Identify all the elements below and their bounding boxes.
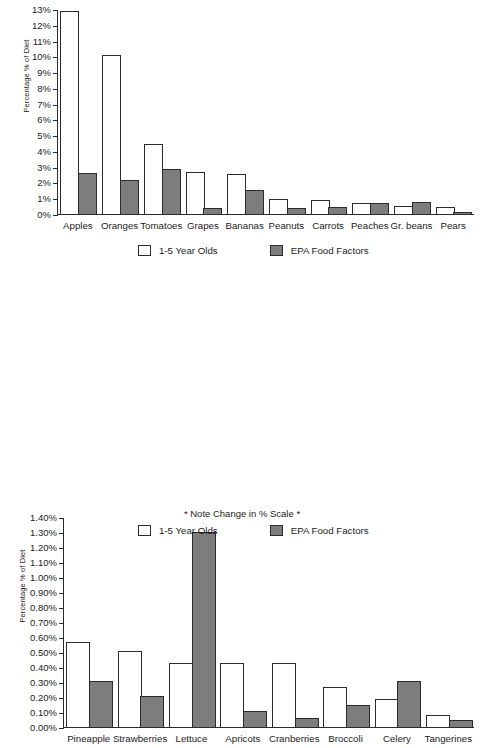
- bar-group: [321, 518, 372, 727]
- legend-label-1-5-year-olds: 1-5 Year Olds: [159, 525, 218, 536]
- bar-epa-factor: [412, 202, 431, 214]
- y-axis-tick-label: 0.20%: [30, 693, 57, 703]
- bar-epa-factor: [192, 532, 216, 727]
- y-axis-tick: [53, 215, 58, 216]
- top-chart-legend: 1-5 Year Olds EPA Food Factors: [138, 245, 369, 256]
- bottom-bar-chart: Percentage % of Diet 1.40%1.30%1.20%1.10…: [0, 506, 484, 748]
- bar-epa-factor: [370, 203, 389, 214]
- bar-epa-factor: [78, 173, 97, 214]
- bar-epa-factor: [346, 705, 370, 728]
- x-axis-label: Strawberries: [113, 734, 167, 744]
- bar-group: [115, 518, 166, 727]
- y-axis-tick-label: 1.30%: [30, 528, 57, 538]
- bar-group: [372, 518, 423, 727]
- bar-epa-factor: [397, 681, 421, 728]
- y-axis-tick-label: 10%: [32, 53, 51, 63]
- bar-group: [183, 10, 225, 214]
- bar-epa-factor: [328, 207, 347, 214]
- x-axis-label: Apples: [63, 221, 93, 231]
- legend-label-1-5-year-olds: 1-5 Year Olds: [159, 245, 218, 256]
- bar-epa-factor: [140, 696, 164, 728]
- x-axis-label: Peanuts: [269, 221, 305, 231]
- bar-child-diet: [375, 699, 399, 728]
- y-axis-tick-label: 1.20%: [30, 543, 57, 553]
- y-axis-tick-label: 0.90%: [30, 588, 57, 598]
- bar-epa-factor: [120, 180, 139, 214]
- top-chart-plot-area: 13%12%11%10%9%8%7%6%5%4%3%2%1%0%: [57, 10, 474, 215]
- y-axis-tick-label: 6%: [37, 116, 51, 126]
- x-axis-label: Peaches: [351, 221, 389, 231]
- bar-child-diet: [227, 174, 246, 214]
- y-axis-tick-label: 7%: [37, 100, 51, 110]
- bar-group: [167, 518, 218, 727]
- bar-group: [270, 518, 321, 727]
- y-axis-tick-label: 1%: [37, 194, 51, 204]
- legend-swatch-dark-icon: [270, 525, 283, 536]
- x-axis-label: Tomatoes: [140, 221, 182, 231]
- y-axis-tick-label: 0.50%: [30, 648, 57, 658]
- x-axis-label: Cranberries: [269, 734, 320, 744]
- bar-epa-factor: [243, 711, 267, 728]
- bar-child-diet: [269, 199, 288, 214]
- y-axis-tick-label: 0.60%: [30, 633, 57, 643]
- y-axis-tick-label: 0.30%: [30, 678, 57, 688]
- figure-two-bar-charts: Percentage % of Diet 13%12%11%10%9%8%7%6…: [0, 0, 484, 488]
- legend-swatch-dark-icon: [270, 245, 283, 256]
- y-axis-tick-label: 0.70%: [30, 618, 57, 628]
- y-axis-tick-label: 9%: [37, 68, 51, 78]
- bar-child-diet: [220, 663, 244, 728]
- bottom-chart-legend: 1-5 Year Olds EPA Food Factors: [138, 525, 369, 536]
- y-axis-tick-label: 0%: [37, 210, 51, 220]
- y-axis-tick-label: 5%: [37, 131, 51, 141]
- legend-swatch-light-icon: [138, 245, 151, 256]
- x-axis-label: Apricots: [225, 734, 260, 744]
- x-axis-label: Carrots: [312, 221, 344, 231]
- bar-child-diet: [118, 651, 142, 728]
- x-axis-label: Oranges: [101, 221, 138, 231]
- y-axis-tick-label: 0.80%: [30, 603, 57, 613]
- y-axis-tick-label: 4%: [37, 147, 51, 157]
- top-bar-chart: Percentage % of Diet 13%12%11%10%9%8%7%6…: [0, 0, 484, 238]
- y-axis-tick-label: 3%: [37, 163, 51, 173]
- y-axis-tick-label: 1.10%: [30, 558, 57, 568]
- y-axis-tick-label: 8%: [37, 84, 51, 94]
- bar-group: [64, 518, 115, 727]
- bar-group: [218, 518, 269, 727]
- bar-epa-factor: [295, 718, 319, 727]
- x-axis-label: Broccoli: [328, 734, 362, 744]
- legend-swatch-light-icon: [138, 525, 151, 536]
- x-axis-label: Gr. beans: [390, 221, 432, 231]
- bar-epa-factor: [245, 190, 264, 214]
- x-axis-label: Tangerines: [425, 734, 472, 744]
- bar-group: [308, 10, 350, 214]
- legend-label-epa-food-factors: EPA Food Factors: [291, 245, 369, 256]
- y-axis-tick-label: 2%: [37, 179, 51, 189]
- bar-group: [100, 10, 142, 214]
- bar-group: [225, 10, 267, 214]
- x-axis-label: Pears: [440, 221, 465, 231]
- bar-child-diet: [186, 172, 205, 214]
- y-axis-tick-label: 13%: [32, 5, 51, 15]
- y-axis-tick-label: 0.40%: [30, 663, 57, 673]
- legend-label-epa-food-factors: EPA Food Factors: [291, 525, 369, 536]
- x-axis-label: Lettuce: [176, 734, 208, 744]
- scale-change-note: * Note Change in % Scale *: [0, 508, 484, 519]
- bar-child-diet: [323, 687, 347, 728]
- bar-epa-factor: [453, 212, 472, 214]
- bar-child-diet: [144, 144, 163, 214]
- bar-epa-factor: [162, 169, 181, 214]
- bar-group: [433, 10, 475, 214]
- bar-child-diet: [394, 206, 413, 214]
- x-axis-label: Celery: [383, 734, 411, 744]
- bottom-chart-plot-area: 1.40%1.30%1.20%1.10%1.00%0.90%0.80%0.70%…: [63, 518, 474, 728]
- y-axis-tick-label: 0.10%: [30, 708, 57, 718]
- bar-child-diet: [102, 55, 121, 214]
- bar-group: [350, 10, 392, 214]
- y-axis-tick-label: 11%: [33, 37, 51, 47]
- bar-epa-factor: [89, 681, 113, 728]
- y-axis-tick-label: 1.00%: [30, 573, 57, 583]
- bar-epa-factor: [449, 720, 473, 728]
- bar-epa-factor: [287, 208, 306, 214]
- bar-group: [424, 518, 475, 727]
- bar-child-diet: [352, 203, 371, 214]
